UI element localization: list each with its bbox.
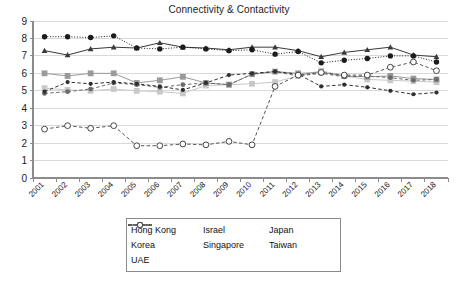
svg-text:2007: 2007 [165,180,184,199]
svg-text:0: 0 [21,173,27,184]
svg-text:2002: 2002 [50,180,69,199]
series-japan [42,68,440,96]
svg-text:2018: 2018 [419,180,438,199]
legend-item-japan[interactable]: Japan [269,225,331,235]
legend-label-korea: Korea [131,240,155,250]
svg-text:7: 7 [21,50,27,61]
svg-text:2004: 2004 [96,180,115,199]
svg-text:2009: 2009 [211,180,230,199]
svg-text:2017: 2017 [396,180,415,199]
svg-text:2016: 2016 [373,180,392,199]
svg-text:2001: 2001 [27,180,46,199]
legend-label-japan: Japan [269,225,294,235]
svg-text:2011: 2011 [258,180,277,199]
legend-item-taiwan[interactable]: Taiwan [269,240,331,250]
legend-row-3: UAE [131,252,336,267]
svg-text:1: 1 [21,155,27,166]
svg-text:5: 5 [21,85,27,96]
svg-text:9: 9 [21,16,27,27]
svg-text:3: 3 [21,120,27,131]
chart-legend: Hong Kong Israel Japan [126,218,341,272]
svg-text:2013: 2013 [304,180,323,199]
svg-text:8: 8 [21,33,27,44]
svg-text:2014: 2014 [327,180,346,199]
legend-item-korea[interactable]: Korea [131,240,203,250]
svg-text:2006: 2006 [142,180,161,199]
legend-label-singapore: Singapore [203,240,244,250]
svg-text:2: 2 [21,138,27,149]
legend-item-israel[interactable]: Israel [203,225,269,235]
legend-label-taiwan: Taiwan [269,240,297,250]
legend-row-2: Korea Singapore Taiwan [131,237,336,252]
svg-text:2012: 2012 [281,180,300,199]
legend-item-singapore[interactable]: Singapore [203,240,269,250]
svg-text:6: 6 [21,68,27,79]
svg-text:2015: 2015 [350,180,369,199]
legend-label-uae: UAE [131,255,150,265]
series-israel [42,69,440,88]
svg-text:2008: 2008 [188,180,207,199]
chart-container: Connectivity & Contactivity 012345678920… [0,0,458,281]
legend-row-1: Hong Kong Israel Japan [131,222,336,237]
series-uae [42,59,440,149]
svg-text:2005: 2005 [119,180,138,199]
legend-label-israel: Israel [203,225,225,235]
svg-text:2010: 2010 [234,180,253,199]
legend-item-uae[interactable]: UAE [131,255,203,265]
svg-text:2003: 2003 [73,180,92,199]
svg-text:4: 4 [21,103,27,114]
legend-key-uae [127,219,153,231]
